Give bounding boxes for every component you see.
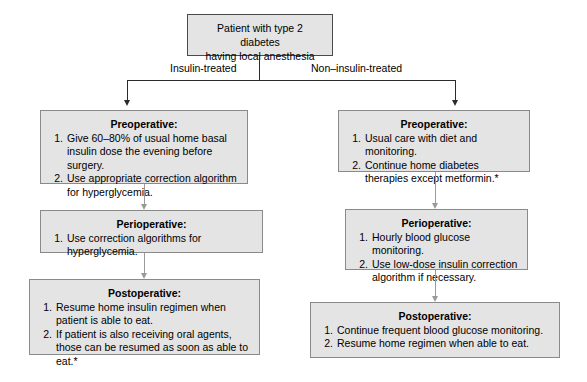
list-item-number: 1. — [49, 132, 63, 145]
right-preoperative-steps: 1. Usual care with diet and monitoring. … — [347, 132, 521, 186]
list-item-number: 2. — [38, 328, 52, 341]
list-item: 1. Hourly blood glucose monitoring. — [354, 231, 519, 258]
list-item-text: Give 60–80% of usual home basal insulin … — [67, 132, 227, 171]
list-item-number: 1. — [319, 324, 333, 337]
left-postoperative-steps: 1. Resume home insulin regimen when pati… — [38, 301, 251, 368]
list-item-number: 1. — [49, 232, 63, 245]
list-item-number: 1. — [38, 301, 52, 314]
right-postoperative-title: Postoperative: — [319, 309, 551, 323]
right-perioperative-steps: 1. Hourly blood glucose monitoring. 2. U… — [354, 231, 519, 285]
right-perioperative-node: Perioperative: 1. Hourly blood glucose m… — [345, 209, 528, 270]
left-perioperative-title: Perioperative: — [49, 217, 254, 231]
root-line-2: having local anesthesia — [196, 49, 324, 63]
branch-label-non-insulin-treated: Non–insulin-treated — [311, 62, 402, 75]
right-preoperative-title: Preoperative: — [347, 117, 521, 131]
list-item: 1. Use correction algorithms for hypergl… — [49, 232, 254, 259]
left-postoperative-node: Postoperative: 1. Resume home insulin re… — [29, 279, 260, 355]
list-item-number: 2. — [319, 337, 333, 350]
right-postoperative-node: Postoperative: 1. Continue frequent bloo… — [310, 302, 560, 358]
right-connector-periop-to-postop — [435, 270, 436, 296]
list-item-number: 1. — [347, 132, 361, 145]
list-item: 2. If patient is also receiving oral age… — [38, 328, 251, 368]
list-item: 1. Continue frequent blood glucose monit… — [319, 324, 551, 337]
list-item-text: Use low-dose insulin correction algorith… — [372, 258, 517, 283]
list-item: 1. Give 60–80% of usual home basal insul… — [49, 132, 239, 172]
list-item-number: 2. — [347, 159, 361, 172]
list-item: 2. Continue home diabetes therapies exce… — [347, 159, 521, 186]
list-item-text: Usual care with diet and monitoring. — [365, 132, 477, 157]
right-connector-preop-to-periop — [435, 172, 436, 203]
right-preoperative-node: Preoperative: 1. Usual care with diet an… — [338, 110, 530, 172]
list-item-text: Continue home diabetes therapies except … — [365, 159, 499, 184]
list-item-text: Use correction algorithms for hyperglyce… — [67, 232, 201, 257]
list-item-number: 1. — [354, 231, 368, 244]
list-item-text: Resume home regimen when able to eat. — [337, 337, 529, 349]
right-postoperative-steps: 1. Continue frequent blood glucose monit… — [319, 324, 551, 351]
branch-horizontal-line — [127, 80, 456, 81]
left-preoperative-node: Preoperative: 1. Give 60–80% of usual ho… — [40, 110, 248, 184]
left-connector-periop-to-postop — [144, 253, 145, 273]
list-item: 1. Resume home insulin regimen when pati… — [38, 301, 251, 328]
left-connector-preop-to-periop — [144, 184, 145, 204]
left-preoperative-title: Preoperative: — [49, 117, 239, 131]
list-item-text: Resume home insulin regimen when patient… — [56, 301, 226, 326]
list-item-number: 2. — [49, 172, 63, 185]
list-item-text: Use appropriate correction algorithm for… — [67, 172, 237, 197]
list-item-text: Hourly blood glucose monitoring. — [372, 231, 470, 256]
root-stem-line — [259, 56, 260, 80]
left-perioperative-steps: 1. Use correction algorithms for hypergl… — [49, 232, 254, 259]
left-postoperative-title: Postoperative: — [38, 286, 251, 300]
branch-right-drop-line — [455, 80, 456, 100]
branch-left-arrowhead — [124, 100, 130, 106]
list-item: 1. Usual care with diet and monitoring. — [347, 132, 521, 159]
branch-label-insulin-treated: Insulin-treated — [170, 62, 237, 75]
right-perioperative-title: Perioperative: — [354, 216, 519, 230]
branch-right-arrowhead — [452, 100, 458, 106]
list-item: 2. Use low-dose insulin correction algor… — [354, 258, 519, 285]
left-perioperative-node: Perioperative: 1. Use correction algorit… — [40, 210, 263, 253]
branch-left-drop-line — [127, 80, 128, 100]
flowchart-canvas: Patient with type 2 diabetes having loca… — [0, 0, 587, 382]
list-item-text: Continue frequent blood glucose monitori… — [337, 324, 543, 336]
list-item-text: If patient is also receiving oral agents… — [56, 328, 248, 367]
root-line-1: Patient with type 2 diabetes — [196, 21, 324, 49]
root-node: Patient with type 2 diabetes having loca… — [187, 14, 333, 56]
list-item: 2. Resume home regimen when able to eat. — [319, 337, 551, 350]
list-item-number: 2. — [354, 258, 368, 271]
